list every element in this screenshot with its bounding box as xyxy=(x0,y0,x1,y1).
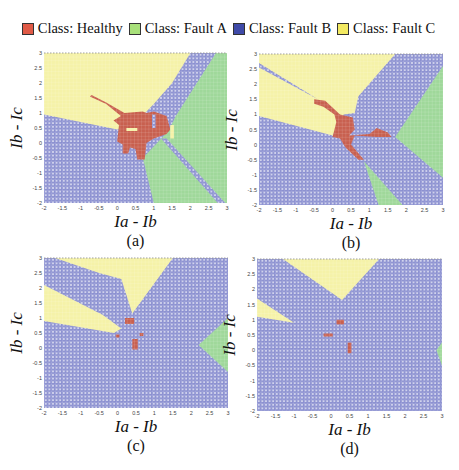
x-tick-label: 3 xyxy=(226,410,229,416)
x-tick-label: -0.5 xyxy=(94,205,103,211)
panel-caption-d: (d) xyxy=(257,440,442,458)
y-tick-label: -0.5 xyxy=(248,157,257,163)
y-axis-label-d: Ib - Ic xyxy=(220,300,240,370)
y-tick-label: -2 xyxy=(37,200,42,206)
x-tick-label: 2 xyxy=(189,205,192,211)
y-tick-label: -1.5 xyxy=(33,185,42,191)
y-tick-label: -1 xyxy=(250,378,255,384)
y-tick-label: 1 xyxy=(39,315,42,321)
y-tick-label: 2.5 xyxy=(34,270,42,276)
y-tick-label: -2 xyxy=(37,405,42,411)
x-tick-label: 0 xyxy=(329,413,332,419)
y-tick-label: 1.5 xyxy=(34,300,42,306)
y-axis-label-b: Ib - Ic xyxy=(222,95,242,165)
x-tick-label: 1.5 xyxy=(169,410,177,416)
x-tick-label: 0.5 xyxy=(347,207,355,213)
legend-item-fault-c: Class: Fault C xyxy=(337,20,435,37)
x-tick-label: 3 xyxy=(440,413,443,419)
x-tick-label: 1.5 xyxy=(168,205,176,211)
y-tick-label: 0 xyxy=(252,347,255,353)
legend-swatch-healthy xyxy=(22,23,34,35)
y-tick-label: 2.5 xyxy=(34,65,42,71)
y-tick-label: 0.5 xyxy=(34,330,42,336)
legend-label-fault-c: Class: Fault C xyxy=(353,20,435,37)
x-axis-label-a: Ia - Ib xyxy=(44,212,227,232)
y-tick-label: 2.5 xyxy=(249,66,257,72)
x-tick-label: 1 xyxy=(368,207,371,213)
decision-map-c: -2-1.5-1-0.500.511.522.53-2-1.5-1-0.500.… xyxy=(44,258,228,408)
y-tick-label: 1 xyxy=(39,110,42,116)
x-tick-label: -1 xyxy=(78,205,83,211)
x-tick-label: 0 xyxy=(116,410,119,416)
y-tick-label: 2.5 xyxy=(247,271,255,277)
decision-map-d: -2-1.5-1-0.500.511.522.53-2-1.5-1-0.500.… xyxy=(257,259,442,411)
legend-item-fault-b: Class: Fault B xyxy=(233,20,331,37)
y-tick-label: -1.5 xyxy=(248,187,257,193)
x-tick-label: 2.5 xyxy=(421,207,429,213)
x-axis-label-c: Ia - Ib xyxy=(44,417,228,437)
y-tick-label: 3 xyxy=(39,255,42,261)
y-tick-label: -1.5 xyxy=(33,390,42,396)
x-axis-label-b: Ia - Ib xyxy=(259,214,443,234)
y-tick-label: -1 xyxy=(37,170,42,176)
x-tick-label: 1 xyxy=(152,205,155,211)
y-tick-label: 1 xyxy=(252,317,255,323)
x-tick-label: 0 xyxy=(331,207,334,213)
x-tick-label: -1.5 xyxy=(271,413,280,419)
x-tick-label: 2.5 xyxy=(206,410,214,416)
legend-swatch-fault-b xyxy=(233,23,245,35)
y-tick-label: 3 xyxy=(254,51,257,57)
x-tick-label: -1.5 xyxy=(273,207,282,213)
x-tick-label: 1 xyxy=(153,410,156,416)
x-tick-label: 2.5 xyxy=(420,413,428,419)
x-tick-label: -0.5 xyxy=(94,410,103,416)
grid-texture xyxy=(259,54,443,205)
x-tick-label: -1 xyxy=(293,207,298,213)
legend-label-healthy: Class: Healthy xyxy=(38,20,123,37)
grid-texture xyxy=(44,53,227,203)
x-tick-label: 2.5 xyxy=(205,205,213,211)
panel-caption-b: (b) xyxy=(259,234,443,252)
x-tick-label: 1 xyxy=(366,413,369,419)
x-tick-label: 3 xyxy=(225,205,228,211)
legend-swatch-fault-a xyxy=(129,23,141,35)
legend-label-fault-a: Class: Fault A xyxy=(145,20,227,37)
x-tick-label: -2 xyxy=(42,410,47,416)
x-tick-label: 1.5 xyxy=(384,207,392,213)
x-tick-label: -2 xyxy=(42,205,47,211)
y-tick-label: 0.5 xyxy=(247,332,255,338)
y-tick-label: -0.5 xyxy=(33,360,42,366)
x-tick-label: 2 xyxy=(405,207,408,213)
y-tick-label: 1.5 xyxy=(34,95,42,101)
x-tick-label: -2 xyxy=(257,207,262,213)
y-axis-label-c: Ib - Ic xyxy=(7,298,27,368)
y-tick-label: -1 xyxy=(252,172,257,178)
y-tick-label: 2 xyxy=(39,80,42,86)
grid-texture xyxy=(257,259,442,411)
panel-caption-c: (c) xyxy=(44,437,228,455)
plot-panel-d: -2-1.5-1-0.500.511.522.53-2-1.5-1-0.500.… xyxy=(257,259,442,411)
y-tick-label: 1 xyxy=(254,111,257,117)
grid-texture xyxy=(44,258,228,408)
y-tick-label: 0.5 xyxy=(249,127,257,133)
y-tick-label: -2 xyxy=(250,408,255,414)
y-tick-label: -1.5 xyxy=(246,393,255,399)
y-tick-label: 1.5 xyxy=(249,96,257,102)
y-tick-label: 0 xyxy=(254,142,257,148)
y-tick-label: 3 xyxy=(252,256,255,262)
y-tick-label: 0.5 xyxy=(34,125,42,131)
x-tick-label: 0.5 xyxy=(132,205,140,211)
panel-caption-a: (a) xyxy=(44,232,227,250)
plot-panel-a: -2-1.5-1-0.500.511.522.53-2-1.5-1-0.500.… xyxy=(44,53,227,203)
plot-panel-b: -2-1.5-1-0.500.511.522.53-2-1.5-1-0.500.… xyxy=(259,54,443,205)
x-tick-label: -1.5 xyxy=(58,410,67,416)
x-tick-label: 2 xyxy=(190,410,193,416)
x-tick-label: 1.5 xyxy=(383,413,391,419)
y-tick-label: -0.5 xyxy=(246,362,255,368)
y-tick-label: 3 xyxy=(39,50,42,56)
x-tick-label: 0 xyxy=(116,205,119,211)
x-tick-label: -1 xyxy=(292,413,297,419)
decision-map-b: -2-1.5-1-0.500.511.522.53-2-1.5-1-0.500.… xyxy=(259,54,443,205)
legend-swatch-fault-c xyxy=(337,23,349,35)
y-tick-label: 0 xyxy=(39,140,42,146)
